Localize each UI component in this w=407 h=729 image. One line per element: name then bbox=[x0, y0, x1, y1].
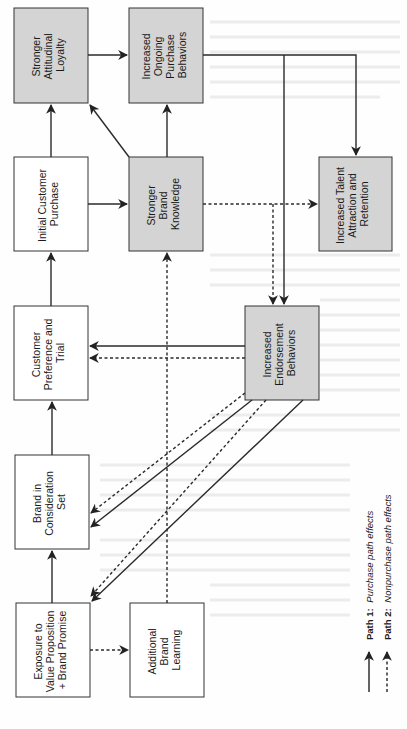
node-increased-endorsement-behaviors: Increased Endorsement Behaviors bbox=[245, 306, 319, 400]
legend: Path 1: Purchase path effects Path 2: No… bbox=[364, 494, 393, 692]
svg-text:Path 1: Purchase path: Path 1: Purchase path effects bbox=[364, 511, 375, 640]
node-exposure-value-proposition: Exposure to Value Proposition + Brand Pr… bbox=[16, 603, 90, 697]
node-additional-brand-learning: Additional Brand Learning bbox=[130, 603, 204, 697]
svg-text:Path 2: Nonpurchase pa: Path 2: Nonpurchase path effects bbox=[382, 494, 393, 640]
edge-knowledge-loyalty bbox=[90, 105, 129, 157]
brand-path-diagram: Stronger Attitudinal Loyalty Increased O… bbox=[0, 0, 407, 729]
edge-ongoing-talent bbox=[203, 55, 356, 155]
node-initial-customer-purchase: Initial Customer Purchase bbox=[14, 157, 88, 251]
edge-endorsement-exposure-dotted bbox=[91, 400, 266, 596]
node-increased-talent-attraction-retention: Increased Talent Attraction and Retentio… bbox=[319, 157, 392, 251]
svg-text:Increased Endorsement: Increased Endorsement Behaviors bbox=[261, 320, 297, 385]
node-increased-ongoing-purchase-behaviors: Increased Ongoing Purchase Behaviors bbox=[129, 8, 203, 103]
node-stronger-brand-knowledge: Stronger Brand Knowledge bbox=[129, 157, 203, 251]
svg-text:Increased Ongoing: Increased Ongoing Purchase Behaviors bbox=[140, 30, 188, 79]
legend-path2: Path 2: Nonpurchase path effects bbox=[382, 494, 393, 692]
node-customer-preference-trial: Customer Preference and Trial bbox=[14, 306, 88, 400]
node-stronger-attitudinal-loyalty: Stronger Attitudinal Loyalty bbox=[14, 8, 88, 103]
legend-path1: Path 1: Purchase path effects bbox=[364, 511, 375, 692]
node-brand-in-consideration-set: Brand in Consideration Set bbox=[15, 455, 89, 549]
diagram-page: Stronger Attitudinal Loyalty Increased O… bbox=[0, 0, 407, 729]
